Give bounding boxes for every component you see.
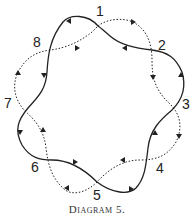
node-label-6: 6 (31, 160, 39, 174)
diagram-caption: Diagram 5. (0, 203, 194, 215)
arrow-icon (176, 134, 182, 139)
node-label-2: 2 (158, 38, 166, 52)
node-label-4: 4 (156, 161, 164, 175)
arrow-icon (64, 185, 69, 191)
arrow-icon (73, 159, 78, 165)
arrow-icon (150, 75, 156, 80)
arrow-icon (15, 70, 21, 75)
node-label-5: 5 (93, 188, 101, 202)
node-label-8: 8 (33, 35, 41, 49)
arrow-icon (40, 127, 46, 132)
arrow-icon (122, 45, 127, 51)
arrow-icon (120, 157, 125, 163)
node-label-7: 7 (4, 96, 12, 110)
node-label-3: 3 (182, 97, 190, 111)
arrow-icon (75, 45, 80, 51)
node-label-1: 1 (96, 4, 104, 18)
arrow-icon (131, 19, 136, 25)
